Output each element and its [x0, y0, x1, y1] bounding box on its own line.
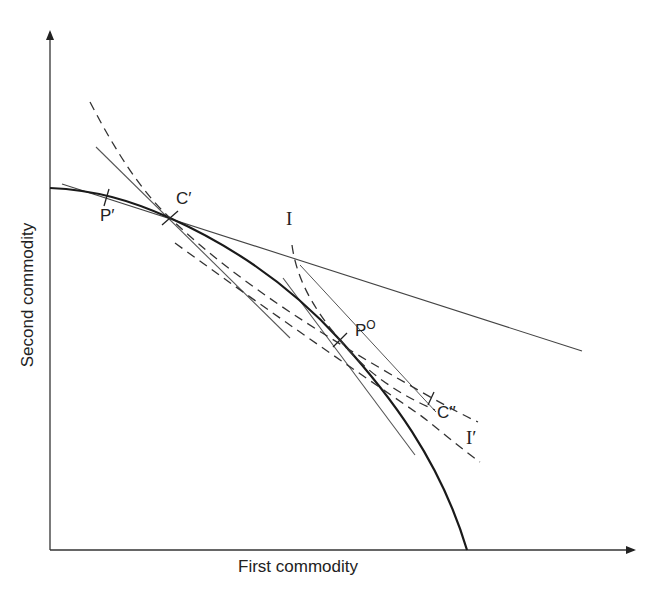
- label-p-zero: PO: [355, 318, 376, 341]
- x-axis-label: First commodity: [238, 557, 358, 577]
- tangent-at-c-prime: [96, 147, 290, 338]
- label-i: I: [286, 208, 292, 230]
- tick-c-prime: [162, 211, 178, 225]
- price-line-through-c-prime: [62, 184, 582, 351]
- y-axis-label: Second commodity: [18, 223, 38, 368]
- label-c-prime: C′: [176, 189, 191, 209]
- diagram-canvas: [0, 0, 651, 600]
- label-p-zero-base: P: [355, 321, 366, 340]
- indifference-curve-c-prime: [90, 102, 478, 422]
- indifference-curve-i-prime: [175, 243, 480, 462]
- label-c-double-prime: C′′: [437, 403, 456, 423]
- tick-c-double-prime: [428, 392, 434, 405]
- label-p-zero-sup: O: [366, 318, 375, 332]
- label-i-prime: I′: [466, 427, 476, 449]
- label-p-prime: P′: [100, 206, 115, 226]
- production-frontier: [50, 188, 467, 550]
